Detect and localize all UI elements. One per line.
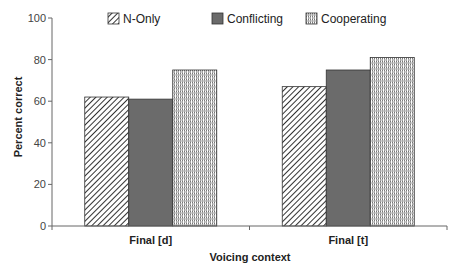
- x-axis: Final [d]Final [t]: [52, 226, 447, 246]
- bar-conflicting: [326, 70, 370, 226]
- y-tick-label: 100: [28, 12, 46, 24]
- y-axis: 020406080100: [28, 12, 52, 232]
- bar-chart: N-OnlyConflictingCooperating 02040608010…: [0, 0, 458, 276]
- y-tick-label: 80: [34, 54, 46, 66]
- legend-label: Cooperating: [321, 12, 386, 26]
- y-tick-label: 60: [34, 95, 46, 107]
- y-axis-title: Percent correct: [12, 76, 24, 157]
- legend-label: Conflicting: [227, 12, 283, 26]
- bar-cooperating: [173, 70, 217, 226]
- y-tick-label: 40: [34, 137, 46, 149]
- y-tick-label: 0: [40, 220, 46, 232]
- legend-swatch-conflicting: [212, 13, 223, 24]
- bars: [85, 58, 415, 226]
- x-category-label: Final [d]: [129, 234, 172, 246]
- legend-swatch-n-only: [108, 13, 119, 24]
- y-tick-label: 20: [34, 178, 46, 190]
- x-category-label: Final [t]: [328, 234, 368, 246]
- legend-swatch-cooperating: [306, 13, 317, 24]
- x-axis-title: Voicing context: [209, 251, 290, 263]
- bar-n-only: [85, 97, 129, 226]
- bar-cooperating: [370, 58, 414, 226]
- legend-label: N-Only: [123, 12, 160, 26]
- bar-conflicting: [129, 99, 173, 226]
- legend: N-OnlyConflictingCooperating: [108, 12, 386, 26]
- bar-n-only: [282, 87, 326, 226]
